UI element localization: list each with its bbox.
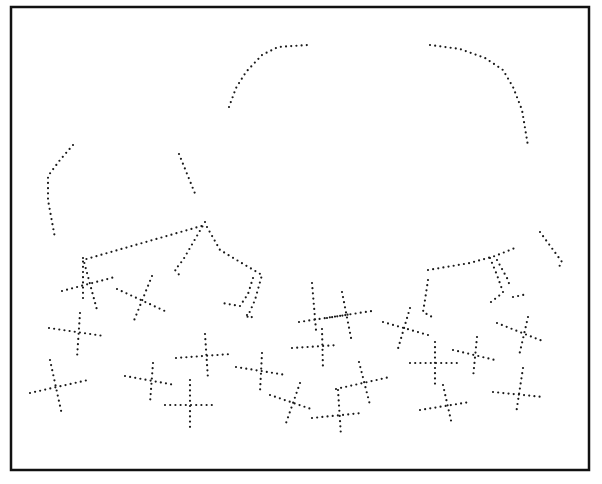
cross-mark xyxy=(236,353,286,392)
cross-stroke-b xyxy=(473,337,477,378)
cross-stroke-a xyxy=(292,345,338,348)
cross-stroke-b xyxy=(322,329,323,370)
dotted-right-body-down xyxy=(423,280,434,318)
cross-stroke-b xyxy=(519,317,528,356)
dotted-left-leg-c xyxy=(222,278,253,306)
cross-mark xyxy=(49,313,104,358)
cross-stroke-a xyxy=(30,380,88,393)
dotted-far-left-arm xyxy=(48,145,73,238)
dotted-right-leg-a xyxy=(490,258,503,292)
figure-frame xyxy=(0,0,602,484)
cross-stroke-b xyxy=(260,353,262,392)
cross-stroke-a xyxy=(420,402,470,410)
cross-marks-group xyxy=(30,258,545,436)
cross-mark xyxy=(30,360,88,415)
cross-stroke-b xyxy=(83,258,97,310)
cross-stroke-a xyxy=(176,354,231,358)
cross-mark xyxy=(125,363,175,403)
cross-stroke-a xyxy=(312,413,362,418)
dotted-mid-left-stub xyxy=(179,154,196,196)
cross-stroke-a xyxy=(299,311,372,322)
dotted-left-body-edge xyxy=(83,225,205,298)
dotted-right-leg-tip xyxy=(513,294,528,297)
cross-mark xyxy=(453,337,495,378)
cross-mark xyxy=(117,276,167,323)
cross-mark xyxy=(165,380,215,427)
cross-stroke-a xyxy=(493,392,543,397)
cross-stroke-b xyxy=(342,292,352,343)
cross-mark xyxy=(270,383,314,426)
dotted-line-diagram xyxy=(0,0,602,484)
cross-stroke-a xyxy=(49,328,104,336)
cross-mark xyxy=(176,334,231,379)
figure-border xyxy=(11,7,589,470)
cross-stroke-a xyxy=(125,376,175,385)
cross-mark xyxy=(420,385,470,425)
dotted-left-leg-a xyxy=(175,222,205,278)
cross-stroke-b xyxy=(312,283,316,330)
cross-stroke-b xyxy=(133,276,152,323)
cross-mark xyxy=(336,362,390,405)
cross-stroke-b xyxy=(77,313,80,358)
cross-stroke-b xyxy=(338,390,341,436)
cross-mark xyxy=(292,329,338,370)
cross-stroke-b xyxy=(150,363,153,403)
cross-stroke-b xyxy=(516,368,523,414)
cross-mark xyxy=(497,317,545,356)
cross-mark xyxy=(410,342,460,388)
cross-mark xyxy=(312,390,362,436)
cross-mark xyxy=(299,283,372,330)
dotted-right-body-edge xyxy=(428,248,515,270)
cross-mark xyxy=(383,308,428,352)
cross-stroke-b xyxy=(285,383,300,426)
dotted-right-leg-c xyxy=(491,295,500,302)
cross-mark xyxy=(493,368,543,414)
dotted-left-arc xyxy=(229,45,308,107)
dotted-far-right-arm xyxy=(540,232,562,270)
cross-stroke-a xyxy=(453,350,495,360)
dotted-right-arc xyxy=(430,45,528,146)
cross-mark xyxy=(62,258,115,310)
cross-stroke-a xyxy=(336,377,390,389)
creature-outline-group xyxy=(48,45,562,319)
cross-stroke-a xyxy=(497,323,545,342)
